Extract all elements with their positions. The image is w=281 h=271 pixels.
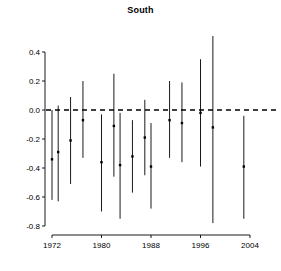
data-point-interval (168, 81, 170, 158)
data-point-interval (181, 82, 183, 162)
x-tick-label: 2004 (241, 241, 259, 250)
data-point-interval (243, 116, 245, 219)
y-tick-label: 0.2 (29, 77, 41, 86)
data-point-interval (144, 100, 146, 175)
y-axis: 0.40.20.0-0.2-0.4-0.6-0.8 (26, 48, 45, 231)
data-point-interval (150, 123, 152, 209)
x-tick-label: 1980 (93, 241, 111, 250)
data-point-interval (51, 110, 53, 200)
x-tick-label: 1996 (192, 241, 210, 250)
data-point-interval (212, 36, 214, 223)
scatter-plot-with-error-bars: 0.40.20.0-0.2-0.4-0.6-0.8 19721980198819… (0, 0, 281, 271)
y-tick-label: -0.4 (26, 164, 40, 173)
y-tick-label: 0.4 (29, 48, 41, 57)
x-tick-label: 1972 (43, 241, 61, 250)
data-point-interval (199, 59, 201, 166)
data-point-interval (100, 114, 102, 211)
data-point-interval (131, 120, 133, 192)
data-point-interval (82, 81, 84, 158)
x-tick-label: 1988 (142, 241, 160, 250)
y-tick-label: -0.8 (26, 222, 40, 231)
data-series (51, 36, 245, 223)
data-point-interval (69, 97, 71, 184)
data-point-interval (119, 113, 121, 219)
chart-container: South 0.40.20.0-0.2-0.4-0.6-0.8 19721980… (0, 0, 281, 271)
x-axis: 19721980198819962004 (43, 235, 259, 250)
y-tick-label: -0.2 (26, 135, 40, 144)
data-point-interval (57, 106, 59, 202)
y-tick-label: 0.0 (29, 106, 41, 115)
y-tick-label: -0.6 (26, 193, 40, 202)
data-point-interval (113, 74, 115, 177)
